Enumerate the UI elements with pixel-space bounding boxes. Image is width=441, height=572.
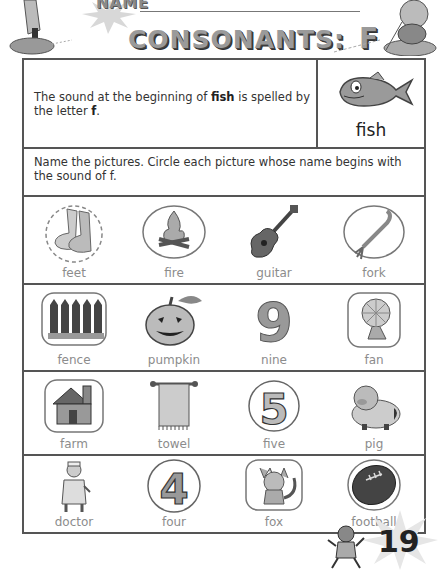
picture-cell-five[interactable]: 5 five: [224, 372, 324, 454]
picture-cell-pumpkin[interactable]: pumpkin: [124, 285, 224, 370]
picture-label: towel: [124, 437, 224, 451]
picture-label: guitar: [224, 266, 324, 280]
picture-cell-fan[interactable]: fan: [324, 285, 424, 370]
picture-cell-fire[interactable]: fire: [124, 197, 224, 283]
picture-cell-fence[interactable]: fence: [24, 285, 124, 370]
instructions-text: Name the pictures. Circle each picture w…: [34, 155, 414, 183]
picture-label: fire: [124, 266, 224, 280]
farmhouse-icon: [43, 378, 105, 434]
number-nine-icon: 9: [254, 291, 294, 349]
picture-cell-doctor[interactable]: doctor: [24, 456, 124, 532]
picture-label: doctor: [24, 515, 124, 529]
svg-text:5: 5: [259, 385, 288, 434]
doctor-icon: [54, 460, 94, 514]
picture-label: fan: [324, 353, 424, 367]
worksheet-header: NAME CONSONANTS:F: [0, 0, 441, 58]
picture-cell-feet[interactable]: feet: [24, 197, 124, 283]
picture-cell-farm[interactable]: farm: [24, 372, 124, 454]
fox-icon: [244, 458, 304, 512]
picture-row-2: fence pumpkin 9 nine: [24, 285, 424, 372]
cartoon-character-left-icon: [6, 0, 76, 56]
cartoon-character-right-icon: [330, 0, 438, 56]
title-text: CONSONANTS:: [128, 25, 345, 54]
fish-icon: [334, 70, 414, 112]
picture-label: four: [124, 515, 224, 529]
fence-icon: [40, 291, 108, 347]
picture-label: pumpkin: [124, 353, 224, 367]
picture-cell-fox[interactable]: fox: [224, 456, 324, 532]
intro-text: The sound at the beginning of fish is sp…: [34, 90, 314, 118]
pig-icon: [344, 378, 404, 434]
svg-text:9: 9: [255, 291, 293, 349]
svg-text:4: 4: [159, 465, 188, 514]
picture-label: farm: [24, 437, 124, 451]
picture-label: fox: [224, 515, 324, 529]
football-icon: [346, 458, 402, 512]
picture-cell-towel[interactable]: towel: [124, 372, 224, 454]
instructions-section: Name the pictures. Circle each picture w…: [24, 149, 424, 197]
page-number: 19: [378, 524, 420, 559]
picture-cell-four[interactable]: 4 four: [124, 456, 224, 532]
campfire-icon: [141, 203, 207, 261]
example-word: fish: [318, 120, 424, 140]
cartoon-mascot-icon: [326, 524, 366, 570]
intro-section: The sound at the beginning of fish is sp…: [24, 60, 424, 149]
picture-label: nine: [224, 353, 324, 367]
picture-cell-pig[interactable]: pig: [324, 372, 424, 454]
picture-cell-nine[interactable]: 9 nine: [224, 285, 324, 370]
picture-label: fork: [324, 266, 424, 280]
picture-label: fence: [24, 353, 124, 367]
worksheet-box: The sound at the beginning of fish is sp…: [22, 58, 426, 534]
picture-label: feet: [24, 266, 124, 280]
guitar-icon: [244, 203, 304, 263]
picture-row-3: farm towel 5 five: [24, 372, 424, 456]
example-picture-cell: fish: [318, 60, 424, 147]
picture-label: five: [224, 437, 324, 451]
picture-cell-fork[interactable]: fork: [324, 197, 424, 283]
towel-icon: [149, 378, 199, 434]
number-five-icon: 5: [247, 378, 301, 434]
name-write-line[interactable]: [140, 11, 360, 12]
feet-icon: [45, 203, 103, 265]
picture-label: pig: [324, 437, 424, 451]
fan-icon: [346, 291, 402, 349]
intro-keyword: fish: [211, 90, 235, 104]
pumpkin-icon: [142, 291, 206, 349]
fork-icon: [341, 203, 407, 261]
picture-row-1: feet fire guitar for: [24, 197, 424, 285]
number-four-icon: 4: [146, 458, 202, 514]
picture-cell-guitar[interactable]: guitar: [224, 197, 324, 283]
